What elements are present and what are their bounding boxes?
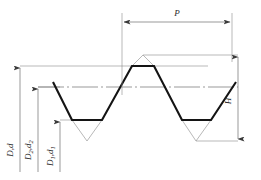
height-dimension: H xyxy=(223,57,238,139)
minor-diameter-label: D1,d1 xyxy=(45,146,56,167)
theoretical-sharp-vee xyxy=(72,55,211,141)
major-diameter-label: D,d xyxy=(5,143,15,158)
pitch-dimension: P xyxy=(122,8,232,95)
sharp-root-right xyxy=(182,120,211,141)
thread-profile-drawing: P H D,d D2,d2 D1,d1 xyxy=(0,0,261,180)
minor-diameter-label-sub2: 1 xyxy=(49,146,56,149)
sharp-root-left xyxy=(72,120,102,141)
pitch-dimension-label: P xyxy=(173,8,180,18)
height-dimension-label: H xyxy=(223,97,233,105)
thread-profile-path xyxy=(53,66,236,120)
sharp-crest-middle xyxy=(132,55,154,66)
pitch-diameter-label: D2,d2 xyxy=(23,139,34,161)
pitch-diameter-label-sub2: 2 xyxy=(27,139,34,143)
minor-diameter-dimension: D1,d1 xyxy=(45,122,60,172)
thread-profile-svg: P H D,d D2,d2 D1,d1 xyxy=(0,0,261,180)
major-diameter-dimension: D,d xyxy=(5,68,20,172)
pitch-diameter-dimension: D2,d2 xyxy=(23,89,38,172)
